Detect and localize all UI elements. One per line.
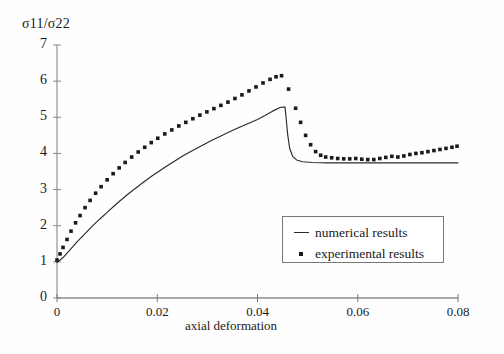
data-point [396, 155, 400, 159]
data-point [117, 166, 121, 170]
data-point [274, 75, 278, 79]
data-point [438, 148, 442, 152]
x-tick-label: 0.06 [336, 304, 380, 320]
data-point [61, 246, 65, 250]
data-point [105, 178, 109, 182]
data-point [205, 110, 209, 114]
data-point [184, 121, 188, 125]
data-point [304, 134, 308, 138]
data-point [336, 157, 340, 161]
data-point [143, 145, 147, 149]
data-point [198, 113, 202, 117]
data-point [324, 155, 328, 159]
data-point [314, 150, 318, 154]
data-point [402, 154, 406, 158]
plot-canvas [0, 0, 504, 354]
data-point [247, 89, 251, 93]
data-point [444, 147, 448, 151]
data-point [414, 152, 418, 156]
data-point [348, 157, 352, 161]
y-tick-label: 0 [25, 289, 47, 305]
data-point [130, 155, 134, 159]
data-point [354, 157, 358, 161]
x-tick-label: 0.08 [436, 304, 480, 320]
y-tick-label: 2 [25, 217, 47, 233]
y-tick-label: 5 [25, 108, 47, 124]
data-point [74, 221, 78, 225]
data-point [420, 151, 424, 155]
data-point [69, 229, 73, 233]
data-point [78, 214, 82, 218]
data-point [58, 252, 62, 256]
data-point [432, 149, 436, 153]
legend: numerical results experimental results [282, 216, 444, 263]
data-point [360, 157, 364, 161]
data-point [212, 107, 216, 111]
y-tick-label: 1 [25, 253, 47, 269]
data-point [163, 132, 167, 136]
data-point [366, 158, 370, 162]
data-point [330, 156, 334, 160]
data-point [170, 128, 174, 132]
y-tick-label: 7 [25, 36, 47, 52]
data-point [450, 145, 454, 149]
data-point [384, 156, 388, 160]
legend-label-experimental: experimental results [312, 246, 424, 262]
data-point [65, 238, 69, 242]
data-point [261, 81, 265, 85]
data-point [149, 141, 153, 145]
data-point [299, 121, 303, 125]
data-point [88, 199, 92, 203]
y-tick-label: 4 [25, 144, 47, 160]
data-point [156, 136, 160, 140]
data-point [191, 117, 195, 121]
x-tick-label: 0.04 [236, 304, 280, 320]
data-point [99, 185, 103, 189]
data-point [287, 87, 291, 91]
data-point [123, 161, 127, 165]
legend-item-experimental: experimental results [290, 243, 434, 264]
data-point [280, 74, 284, 78]
data-point [219, 104, 223, 108]
data-point [83, 206, 87, 210]
data-point [94, 191, 98, 195]
data-point [378, 157, 382, 161]
legend-item-numerical: numerical results [290, 222, 434, 243]
data-point [111, 172, 115, 176]
line-swatch-icon [290, 232, 312, 233]
data-point [426, 150, 430, 154]
data-point [136, 150, 140, 154]
data-point [319, 153, 323, 157]
data-point [408, 153, 412, 157]
legend-label-numerical: numerical results [312, 225, 408, 241]
y-tick-label: 6 [25, 72, 47, 88]
data-point [226, 100, 230, 104]
data-point [309, 143, 313, 147]
data-point [268, 78, 272, 82]
chart-figure: σ11/σ22 axial deformation 01234567 00.02… [0, 0, 504, 354]
data-point [254, 85, 258, 89]
x-tick-label: 0 [35, 304, 79, 320]
data-point [342, 157, 346, 161]
x-tick-label: 0.02 [135, 304, 179, 320]
data-point [233, 97, 237, 101]
y-tick-label: 3 [25, 181, 47, 197]
data-point [390, 155, 394, 159]
data-point [55, 258, 59, 262]
data-point [177, 124, 181, 128]
data-point [372, 158, 376, 162]
data-point [455, 144, 459, 148]
data-point [294, 106, 298, 110]
dot-swatch-icon [290, 252, 312, 256]
data-point [240, 93, 244, 97]
